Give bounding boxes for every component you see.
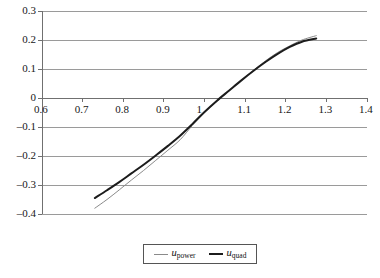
legend-subscript: quad	[232, 252, 247, 261]
legend-item-u-power: upower	[154, 247, 196, 260]
plot-area	[0, 0, 380, 278]
y-axis-tick-label: –0.2	[17, 150, 36, 161]
legend-item-label: uquad	[227, 247, 247, 260]
x-axis-tick-label: 1.4	[359, 104, 373, 115]
legend-line-swatch	[209, 253, 223, 255]
x-axis-tick-label: 0.6	[34, 104, 48, 115]
y-axis-tick-label: 0.2	[22, 34, 36, 45]
series-u-quad	[95, 39, 316, 199]
series-u-power	[95, 36, 316, 209]
legend-item-u-quad: uquad	[209, 247, 247, 260]
y-axis-tick-label: 0	[31, 92, 37, 103]
x-axis-tick-label: 0.9	[156, 104, 170, 115]
x-axis-ticks	[42, 98, 367, 102]
x-axis-tick-label: 1	[197, 104, 203, 115]
x-axis-tick-label: 1.3	[318, 104, 332, 115]
x-axis-tick-label: 0.7	[75, 104, 89, 115]
chart-legend: upoweruquad	[143, 244, 257, 264]
x-axis-tick-label: 1.1	[237, 104, 251, 115]
legend-subscript: power	[177, 252, 196, 261]
x-axis-tick-label: 1.2	[278, 104, 292, 115]
y-axis-tick-label: –0.1	[17, 121, 36, 132]
y-axis-tick-label: –0.3	[17, 179, 36, 190]
y-axis-tick-label: 0.1	[22, 63, 36, 74]
y-axis-tick-label: –0.4	[17, 208, 36, 219]
legend-line-swatch	[154, 254, 168, 255]
chart-container: 0.30.20.10–0.1–0.2–0.3–0.4 0.60.70.80.91…	[0, 0, 380, 278]
x-axis-tick-label: 0.8	[115, 104, 129, 115]
y-axis-tick-label: 0.3	[22, 5, 36, 16]
legend-item-label: upower	[172, 247, 196, 260]
